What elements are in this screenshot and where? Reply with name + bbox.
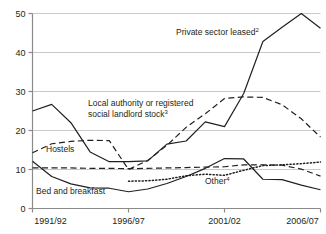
footnote-marker: 4 xyxy=(226,176,230,182)
series-line-hostels xyxy=(33,165,321,176)
x-axis-ticks: 1991/921996/972001/022006/07 xyxy=(33,209,321,226)
series-label: Bed and breakfast xyxy=(36,186,106,196)
footnote-marker: 3 xyxy=(165,109,169,115)
y-tick-label: 30 xyxy=(15,87,25,97)
footnote-marker: 2 xyxy=(255,27,259,33)
y-tick-label: 40 xyxy=(15,48,25,58)
x-tick-label: 1991/92 xyxy=(34,216,67,226)
series-label: Local authority or registered xyxy=(88,98,194,108)
chart-container: 01020304050 1991/921996/972001/022006/07… xyxy=(0,0,326,234)
y-tick-label: 10 xyxy=(15,165,25,175)
line-chart: 01020304050 1991/921996/972001/022006/07… xyxy=(0,0,326,234)
y-tick-label: 0 xyxy=(20,204,25,214)
x-tick-label: 1996/97 xyxy=(112,216,145,226)
series-label: social landlord stock3 xyxy=(88,109,169,119)
series-label: Other4 xyxy=(205,176,230,186)
y-tick-label: 20 xyxy=(15,126,25,136)
series-label: Hostels xyxy=(46,144,74,154)
y-tick-label: 50 xyxy=(15,9,25,19)
x-tick-label: 2001/02 xyxy=(208,216,241,226)
x-tick-label: 2006/07 xyxy=(286,216,319,226)
series-label: Private sector leased2 xyxy=(176,27,259,37)
y-axis-ticks: 01020304050 xyxy=(15,9,32,214)
